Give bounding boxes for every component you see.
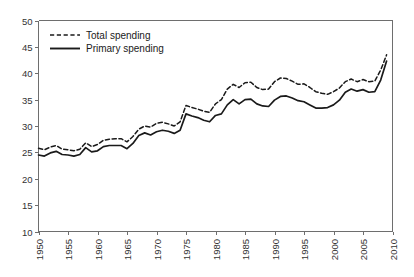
chart-container: 101520253035404550 195019551960196519701… <box>0 0 414 277</box>
chart-legend: Total spendingPrimary spending <box>50 30 164 55</box>
x-tick-label: 2010 <box>388 239 399 260</box>
chart-series <box>39 55 387 156</box>
legend-label-primary-spending: Primary spending <box>86 43 164 54</box>
y-tick-label: 30 <box>22 121 33 132</box>
x-tick-label: 1985 <box>240 239 251 260</box>
y-tick-label: 20 <box>22 174 33 185</box>
x-tick-label: 1980 <box>211 239 222 260</box>
x-tick-label: 1960 <box>93 239 104 260</box>
x-tick-label: 1965 <box>122 239 133 260</box>
x-axis-ticks: 1950195519601965197019751980198519901995… <box>34 232 399 261</box>
x-tick-label: 2000 <box>329 239 340 260</box>
y-tick-label: 10 <box>22 227 33 238</box>
y-tick-label: 40 <box>22 68 33 79</box>
x-tick-label: 1955 <box>63 239 74 260</box>
y-tick-label: 15 <box>22 200 33 211</box>
line-chart: 101520253035404550 195019551960196519701… <box>0 0 414 277</box>
x-tick-label: 1970 <box>152 239 163 260</box>
x-tick-label: 1990 <box>270 239 281 260</box>
y-tick-label: 45 <box>22 42 33 53</box>
y-axis-ticks: 101520253035404550 <box>22 16 39 238</box>
series-line-total-spending <box>39 55 387 151</box>
y-tick-label: 50 <box>22 16 33 27</box>
y-tick-label: 25 <box>22 147 33 158</box>
y-tick-label: 35 <box>22 95 33 106</box>
x-tick-label: 2005 <box>358 239 369 260</box>
x-tick-label: 1995 <box>299 239 310 260</box>
x-tick-label: 1950 <box>34 239 45 260</box>
x-tick-label: 1975 <box>181 239 192 260</box>
legend-label-total-spending: Total spending <box>86 30 151 41</box>
